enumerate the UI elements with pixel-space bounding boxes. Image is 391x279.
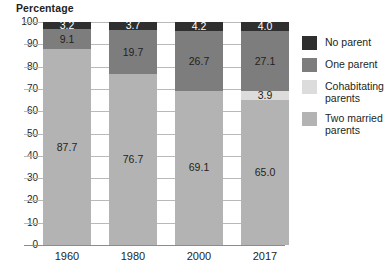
y-tick-label-10: 10 <box>12 218 38 228</box>
y-tick-label-60: 60 <box>12 106 38 116</box>
bar-1980[interactable]: 76.719.73.7 <box>109 22 157 245</box>
y-tick-label-100: 100 <box>12 17 38 27</box>
y-tick-label-40: 40 <box>12 151 38 161</box>
bar-2000[interactable]: 69.126.74.2 <box>175 22 223 245</box>
segment-1960-two-married-parents[interactable]: 87.7 <box>43 49 91 245</box>
x-tick-label-1960: 1960 <box>32 250 102 262</box>
segment-value-label: 65.0 <box>255 167 275 178</box>
y-tick-label-80: 80 <box>12 62 38 72</box>
segment-2017-two-married-parents[interactable]: 65.0 <box>241 100 289 245</box>
segment-2017-no-parent[interactable]: 4.0 <box>241 22 289 31</box>
segment-1960-one-parent[interactable]: 9.1 <box>43 29 91 49</box>
segment-2017-one-parent[interactable]: 27.1 <box>241 31 289 91</box>
bar-2017[interactable]: 65.03.927.14.0 <box>241 22 289 245</box>
segment-value-label: 4.2 <box>192 21 207 32</box>
chart-legend: No parentOne parentCohabitating parentsT… <box>302 36 391 144</box>
legend-swatch-icon <box>302 58 317 72</box>
plot-area: 87.79.13.276.719.73.769.126.74.265.03.92… <box>43 22 285 245</box>
segment-2000-no-parent[interactable]: 4.2 <box>175 22 223 31</box>
segment-value-label: 26.7 <box>189 56 209 67</box>
legend-item-no-parent[interactable]: No parent <box>302 36 391 50</box>
segment-2017-cohabitating-parents[interactable]: 3.9 <box>241 91 289 100</box>
segment-value-label: 87.7 <box>57 142 77 153</box>
segment-2000-one-parent[interactable]: 26.7 <box>175 31 223 91</box>
x-tick-label-1980: 1980 <box>98 250 168 262</box>
legend-swatch-icon <box>302 80 317 94</box>
y-tick-label-30: 30 <box>12 173 38 183</box>
legend-label: Two married parents <box>325 112 391 136</box>
legend-label: Cohabitating parents <box>325 80 391 104</box>
x-tick-label-2017: 2017 <box>230 250 300 262</box>
bar-1960[interactable]: 87.79.13.2 <box>43 22 91 245</box>
legend-label: No parent <box>325 36 371 49</box>
segment-1980-two-married-parents[interactable]: 76.7 <box>109 74 157 245</box>
legend-item-one-parent[interactable]: One parent <box>302 58 391 72</box>
segment-value-label: 9.1 <box>60 34 75 45</box>
segment-value-label: 69.1 <box>189 162 209 173</box>
legend-label: One parent <box>325 58 378 71</box>
segment-1980-one-parent[interactable]: 19.7 <box>109 30 157 74</box>
stacked-bar-chart: Percentage 0102030405060708090100 87.79.… <box>0 0 391 279</box>
segment-value-label: 3.7 <box>126 20 141 31</box>
legend-item-cohabitating-parents[interactable]: Cohabitating parents <box>302 80 391 104</box>
segment-value-label: 76.7 <box>123 154 143 165</box>
y-tick-label-90: 90 <box>12 39 38 49</box>
segment-1980-no-parent[interactable]: 3.7 <box>109 22 157 30</box>
y-tick-label-20: 20 <box>12 195 38 205</box>
legend-swatch-icon <box>302 36 317 50</box>
y-tick-label-70: 70 <box>12 84 38 94</box>
x-tick-label-2000: 2000 <box>164 250 234 262</box>
legend-item-two-married-parents[interactable]: Two married parents <box>302 112 391 136</box>
segment-value-label: 3.9 <box>258 90 273 101</box>
segment-value-label: 4.0 <box>258 21 273 32</box>
y-tick-label-50: 50 <box>12 129 38 139</box>
y-axis-tick-labels: 0102030405060708090100 <box>0 0 38 279</box>
segment-value-label: 3.2 <box>60 20 75 31</box>
gridline-0 <box>24 245 285 246</box>
segment-1960-no-parent[interactable]: 3.2 <box>43 22 91 29</box>
segment-value-label: 19.7 <box>123 47 143 58</box>
legend-swatch-icon <box>302 112 317 126</box>
segment-value-label: 27.1 <box>255 56 275 67</box>
y-tick-label-0: 0 <box>12 240 38 250</box>
segment-2000-two-married-parents[interactable]: 69.1 <box>175 91 223 245</box>
